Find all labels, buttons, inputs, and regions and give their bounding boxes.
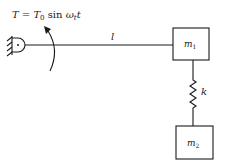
torque-equation: T = T0 sin ωtt xyxy=(12,9,82,22)
torque-arrow-icon xyxy=(44,26,55,71)
mass-spring-diagram: T = T0 sin ωtt l m1 k m2 xyxy=(0,0,225,166)
mass-2-block: m2 xyxy=(176,126,213,159)
rod-length-label: l xyxy=(111,31,114,42)
mass-1-block: m1 xyxy=(173,28,209,60)
spring-constant-label: k xyxy=(201,86,207,97)
spring-icon: k xyxy=(190,60,207,126)
svg-text:m2: m2 xyxy=(187,138,200,149)
pivot-icon xyxy=(12,38,25,52)
fixed-wall-icon xyxy=(7,36,12,56)
svg-text:m1: m1 xyxy=(184,39,196,50)
